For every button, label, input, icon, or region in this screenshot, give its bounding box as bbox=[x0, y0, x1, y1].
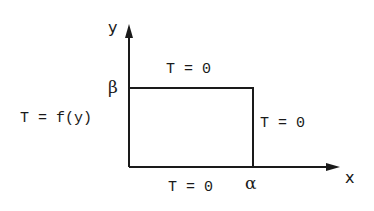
right-boundary-condition: T = 0 bbox=[260, 116, 305, 131]
left-boundary-condition: T = f(y) bbox=[20, 111, 92, 126]
top-boundary-condition: T = 0 bbox=[166, 62, 211, 77]
y-axis-label: y bbox=[108, 20, 117, 36]
x-axis-arrow-icon bbox=[326, 163, 340, 171]
alpha-width-label: α bbox=[245, 175, 256, 192]
rectangle-domain-diagram: y x β α T = 0 T = 0 T = 0 T = f(y) bbox=[0, 0, 374, 211]
x-axis-label: x bbox=[345, 170, 354, 186]
bottom-boundary-condition: T = 0 bbox=[168, 180, 213, 195]
beta-height-label: β bbox=[108, 79, 118, 96]
y-axis-arrow-icon bbox=[125, 24, 133, 38]
